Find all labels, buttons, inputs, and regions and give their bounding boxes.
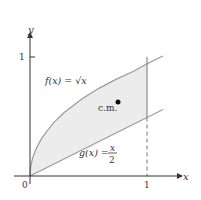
x-axis-label: x [183,171,189,182]
x-tick-label: 1 [144,180,150,190]
y-tick-label: 1 [19,52,25,62]
g-denominator: 2 [109,155,115,165]
f-label: f(x) = √x [44,75,87,86]
cm-label: c.m. [98,103,117,113]
origin-label: 0 [22,180,28,190]
center-of-mass-diagram: y x 0 1 1 f(x) = √x c.m. g(x) = x 2 [0,0,201,200]
y-axis-label: y [27,24,34,35]
g-numerator: x [110,143,115,153]
g-label: g(x) = [79,147,109,158]
diagram-svg: y x 0 1 1 f(x) = √x c.m. g(x) = x 2 [0,0,201,200]
